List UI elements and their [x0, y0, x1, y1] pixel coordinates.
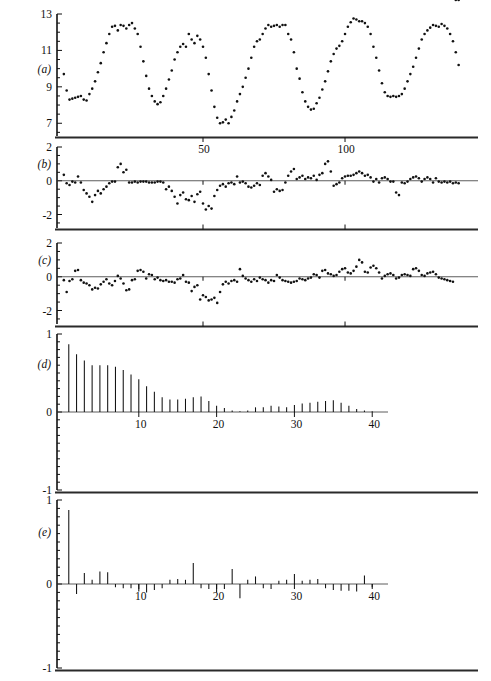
- data-point: [142, 180, 145, 183]
- data-point: [247, 279, 250, 282]
- data-point: [315, 102, 318, 105]
- data-point: [224, 281, 227, 284]
- data-point: [426, 29, 429, 32]
- data-point: [230, 280, 233, 283]
- data-point: [261, 174, 264, 177]
- data-point: [230, 181, 233, 184]
- data-point: [298, 77, 301, 80]
- data-point: [99, 283, 102, 286]
- data-point: [170, 69, 173, 72]
- data-point: [227, 282, 230, 285]
- data-point: [145, 277, 148, 280]
- y-tick-label-c-1: 0: [46, 271, 52, 283]
- data-point: [97, 287, 100, 290]
- data-point: [383, 275, 386, 278]
- data-point: [361, 261, 364, 264]
- data-point: [74, 181, 77, 184]
- data-point: [168, 281, 171, 284]
- data-point: [415, 175, 418, 178]
- data-point: [117, 166, 120, 169]
- data-point: [88, 93, 91, 96]
- data-point: [216, 116, 219, 119]
- data-point: [190, 38, 193, 41]
- data-point: [310, 177, 313, 180]
- data-point: [207, 299, 210, 302]
- data-point: [457, 182, 460, 185]
- data-point: [318, 96, 321, 99]
- data-point: [366, 174, 369, 177]
- data-point: [418, 270, 421, 273]
- data-point: [435, 25, 438, 28]
- data-point: [321, 88, 324, 91]
- data-point: [352, 270, 355, 273]
- data-point: [304, 100, 307, 103]
- data-point: [139, 180, 142, 183]
- data-point: [227, 182, 230, 185]
- data-point: [222, 121, 225, 124]
- data-point: [287, 33, 290, 36]
- data-point: [165, 87, 168, 90]
- data-point: [298, 277, 301, 280]
- y-tick-label-a-2: 9: [46, 81, 52, 93]
- data-point: [403, 87, 406, 90]
- data-point: [108, 282, 111, 285]
- data-point: [324, 269, 327, 272]
- data-point: [250, 56, 253, 59]
- data-point: [364, 174, 367, 177]
- data-point: [253, 185, 256, 188]
- data-point: [131, 181, 134, 184]
- data-point: [335, 183, 338, 186]
- data-point: [446, 27, 449, 30]
- data-point: [287, 281, 290, 284]
- data-point: [153, 278, 156, 281]
- data-point: [233, 279, 236, 282]
- data-point: [105, 185, 108, 188]
- data-point: [142, 270, 145, 273]
- data-point: [449, 180, 452, 183]
- data-point: [307, 106, 310, 109]
- data-point: [250, 281, 253, 284]
- data-point: [375, 56, 378, 59]
- data-point: [330, 273, 333, 276]
- data-point: [111, 25, 114, 28]
- data-point: [420, 180, 423, 183]
- data-point: [278, 190, 281, 193]
- data-point: [63, 73, 66, 76]
- y-tick-label-d-0: 1: [46, 328, 52, 340]
- data-point: [304, 178, 307, 181]
- data-point: [108, 182, 111, 185]
- data-point: [415, 56, 418, 59]
- data-point: [270, 179, 273, 182]
- data-point: [219, 185, 222, 188]
- data-point: [148, 273, 151, 276]
- data-point: [437, 276, 440, 279]
- data-point: [102, 188, 105, 191]
- data-point: [119, 277, 122, 280]
- data-point: [199, 38, 202, 41]
- data-point: [105, 278, 108, 281]
- data-point: [443, 25, 446, 28]
- data-point: [378, 69, 381, 72]
- data-point: [114, 280, 117, 283]
- data-point: [375, 178, 378, 181]
- panel-label-b: (b): [38, 158, 52, 171]
- data-point: [290, 281, 293, 284]
- data-point: [125, 289, 128, 292]
- y-tick-label-e-2: -1: [42, 662, 52, 674]
- data-point: [392, 95, 395, 98]
- panel-label-e: (e): [38, 526, 51, 539]
- data-point: [139, 45, 142, 48]
- data-point: [253, 45, 256, 48]
- data-point: [366, 25, 369, 28]
- data-point: [412, 268, 415, 271]
- data-point: [273, 280, 276, 283]
- data-point: [219, 122, 222, 125]
- data-point: [102, 51, 105, 54]
- data-point: [406, 274, 409, 277]
- data-point: [435, 273, 438, 276]
- data-point: [80, 95, 83, 98]
- data-point: [383, 176, 386, 179]
- y-tick-label-b-2: -2: [42, 209, 52, 221]
- data-point: [341, 268, 344, 271]
- data-point: [256, 182, 259, 185]
